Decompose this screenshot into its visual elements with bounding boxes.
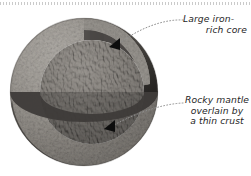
label-core-line2: rich core [183,25,249,36]
label-core-line1: Large iron- [183,14,249,25]
iron-core [40,40,144,144]
label-large-iron-rich-core: Large iron- rich core [183,14,249,35]
label-mantle-line1: Rocky mantle [183,95,251,106]
label-mantle-line3: a thin crust [183,116,251,127]
label-rocky-mantle: Rocky mantle overlain by a thin crust [183,95,251,127]
